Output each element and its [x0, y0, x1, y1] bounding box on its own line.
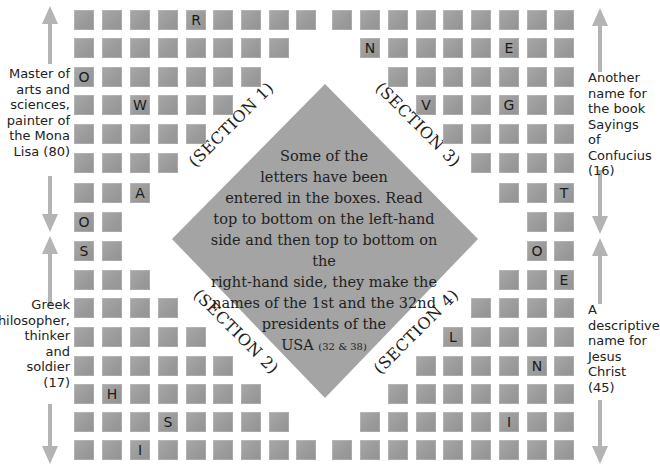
- letter-box[interactable]: [554, 212, 574, 232]
- letter-box[interactable]: [130, 67, 150, 87]
- letter-box[interactable]: [102, 327, 122, 347]
- letter-box[interactable]: [130, 38, 150, 58]
- letter-box[interactable]: [213, 384, 233, 404]
- letter-box[interactable]: [527, 212, 547, 232]
- letter-box[interactable]: [241, 440, 261, 460]
- letter-box[interactable]: [416, 38, 436, 58]
- letter-box[interactable]: S: [74, 241, 94, 261]
- letter-box[interactable]: [158, 38, 178, 58]
- letter-box[interactable]: [241, 384, 261, 404]
- letter-box[interactable]: [102, 153, 122, 173]
- letter-box[interactable]: [213, 67, 233, 87]
- letter-box[interactable]: [158, 153, 178, 173]
- letter-box[interactable]: [74, 38, 94, 58]
- letter-box[interactable]: [213, 10, 233, 30]
- letter-box[interactable]: [416, 440, 436, 460]
- letter-box[interactable]: N: [527, 356, 547, 376]
- letter-box[interactable]: [186, 95, 206, 115]
- letter-box[interactable]: [471, 298, 491, 318]
- letter-box[interactable]: [471, 356, 491, 376]
- letter-box[interactable]: [388, 10, 408, 30]
- letter-box[interactable]: E: [554, 270, 574, 290]
- letter-box[interactable]: [102, 270, 122, 290]
- letter-box[interactable]: [269, 412, 289, 432]
- letter-box[interactable]: [130, 153, 150, 173]
- letter-box[interactable]: [186, 38, 206, 58]
- letter-box[interactable]: S: [158, 412, 178, 432]
- letter-box[interactable]: [241, 38, 261, 58]
- letter-box[interactable]: [471, 153, 491, 173]
- letter-box[interactable]: [554, 10, 574, 30]
- letter-box[interactable]: [74, 153, 94, 173]
- letter-box[interactable]: [158, 384, 178, 404]
- letter-box[interactable]: [471, 440, 491, 460]
- letter-box[interactable]: [130, 298, 150, 318]
- letter-box[interactable]: [269, 38, 289, 58]
- letter-box[interactable]: [332, 10, 352, 30]
- letter-box[interactable]: [471, 95, 491, 115]
- letter-box[interactable]: [443, 356, 463, 376]
- letter-box[interactable]: V: [416, 95, 436, 115]
- letter-box[interactable]: [527, 95, 547, 115]
- letter-box[interactable]: T: [554, 183, 574, 203]
- letter-box[interactable]: [554, 412, 574, 432]
- letter-box[interactable]: [554, 241, 574, 261]
- letter-box[interactable]: [158, 95, 178, 115]
- letter-box[interactable]: [158, 327, 178, 347]
- letter-box[interactable]: [471, 412, 491, 432]
- letter-box[interactable]: [241, 10, 261, 30]
- letter-box[interactable]: [416, 67, 436, 87]
- letter-box[interactable]: [499, 298, 519, 318]
- letter-box[interactable]: [269, 440, 289, 460]
- letter-box[interactable]: [186, 440, 206, 460]
- letter-box[interactable]: [443, 384, 463, 404]
- letter-box[interactable]: [102, 183, 122, 203]
- letter-box[interactable]: [102, 440, 122, 460]
- letter-box[interactable]: [443, 412, 463, 432]
- letter-box[interactable]: [443, 38, 463, 58]
- letter-box[interactable]: [186, 67, 206, 87]
- letter-box[interactable]: [213, 412, 233, 432]
- letter-box[interactable]: I: [499, 412, 519, 432]
- letter-box[interactable]: R: [186, 10, 206, 30]
- letter-box[interactable]: [186, 384, 206, 404]
- letter-box[interactable]: [499, 67, 519, 87]
- letter-box[interactable]: [499, 153, 519, 173]
- letter-box[interactable]: [554, 124, 574, 144]
- letter-box[interactable]: [158, 10, 178, 30]
- letter-box[interactable]: [74, 356, 94, 376]
- letter-box[interactable]: [554, 384, 574, 404]
- letter-box[interactable]: [74, 183, 94, 203]
- letter-box[interactable]: G: [499, 95, 519, 115]
- letter-box[interactable]: [102, 212, 122, 232]
- letter-box[interactable]: [74, 270, 94, 290]
- letter-box[interactable]: [74, 10, 94, 30]
- letter-box[interactable]: [158, 440, 178, 460]
- letter-box[interactable]: [443, 95, 463, 115]
- letter-box[interactable]: [213, 38, 233, 58]
- letter-box[interactable]: [130, 270, 150, 290]
- letter-box[interactable]: [74, 440, 94, 460]
- letter-box[interactable]: W: [130, 95, 150, 115]
- letter-box[interactable]: [360, 440, 380, 460]
- letter-box[interactable]: [554, 327, 574, 347]
- letter-box[interactable]: [102, 124, 122, 144]
- letter-box[interactable]: [102, 67, 122, 87]
- letter-box[interactable]: [388, 384, 408, 404]
- letter-box[interactable]: [102, 412, 122, 432]
- letter-box[interactable]: [527, 270, 547, 290]
- letter-box[interactable]: [527, 327, 547, 347]
- letter-box[interactable]: [471, 327, 491, 347]
- letter-box[interactable]: [527, 384, 547, 404]
- letter-box[interactable]: E: [499, 38, 519, 58]
- letter-box[interactable]: [443, 440, 463, 460]
- letter-box[interactable]: [74, 124, 94, 144]
- letter-box[interactable]: [74, 327, 94, 347]
- letter-box[interactable]: [102, 241, 122, 261]
- letter-box[interactable]: [554, 298, 574, 318]
- letter-box[interactable]: [554, 38, 574, 58]
- letter-box[interactable]: [527, 153, 547, 173]
- letter-box[interactable]: [74, 298, 94, 318]
- letter-box[interactable]: [332, 440, 352, 460]
- letter-box[interactable]: [102, 95, 122, 115]
